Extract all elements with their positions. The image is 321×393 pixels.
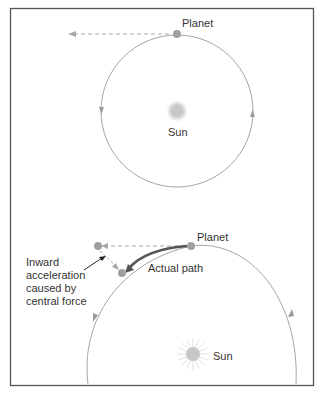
orbit-direction-arrow-down-icon [99,107,104,114]
top-planet-label: Planet [182,17,213,30]
actual-path-label: Actual path [148,262,203,275]
frame [11,9,314,386]
sun-icon [165,99,189,123]
label-pointer-arrow-icon [99,256,106,261]
orbit-direction-arrow-up-icon [250,110,255,117]
top-sun-label: Sun [168,126,188,139]
planet [173,30,181,38]
inward-label-line: acceleration [26,269,87,282]
top-panel [68,30,255,187]
sun-icon [177,338,209,370]
orbit-direction-arrow-up-icon [288,309,294,317]
inward-label-line: caused by [26,282,87,295]
bottom-planet-label: Planet [197,231,228,244]
tangent-arrow-icon [68,31,76,37]
planet [187,242,195,250]
tangent-planet-position [94,242,102,250]
inward-label-line: central force [26,295,87,308]
label-pointer-line [84,258,102,270]
inward-arrow-icon [112,263,119,270]
actual-planet-position [118,269,126,277]
bottom-sun-label: Sun [213,350,233,363]
tangent-arrow-icon [101,243,108,249]
orbit-diagram [0,0,321,393]
inward-label-line: Inward [26,256,87,269]
inward-acceleration-label: Inward acceleration caused by central fo… [26,256,87,308]
